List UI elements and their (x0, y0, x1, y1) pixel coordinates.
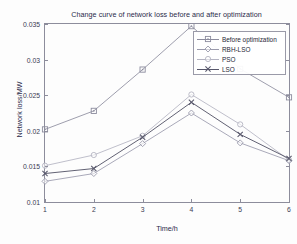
x-tick-label: 5 (220, 206, 260, 213)
data-point-cross (238, 132, 243, 137)
y-tick-label: 0.015 (0, 163, 40, 170)
data-point-diamond (237, 140, 243, 146)
legend-marker-cross-icon (196, 64, 220, 74)
x-tick-mark (289, 199, 290, 202)
x-tick-label: 4 (171, 206, 211, 213)
y-tick-mark (45, 95, 48, 96)
y-tick-label: 0.025 (0, 92, 40, 99)
data-point-diamond (188, 110, 194, 116)
chart-legend[interactable]: Before optimizationRBH-LSOPSOLSO (193, 31, 286, 75)
y-tick-label: 0.035 (0, 21, 40, 28)
x-tick-mark (143, 199, 144, 202)
series-line-2 (45, 94, 289, 165)
y-tick-mark (286, 166, 289, 167)
chart-title: Change curve of network loss before and … (44, 10, 289, 19)
legend-item-3[interactable]: LSO (194, 64, 285, 74)
y-tick-mark (45, 24, 48, 25)
data-point-cross (189, 100, 194, 105)
y-tick-mark (286, 131, 289, 132)
x-tick-label: 6 (269, 206, 297, 213)
legend-marker-square-icon (196, 34, 220, 44)
x-tick-label: 2 (74, 206, 114, 213)
data-point-cross (205, 66, 210, 71)
y-tick-mark (45, 202, 48, 203)
y-tick-mark (286, 60, 289, 61)
data-point-circle (189, 92, 194, 97)
series-line-1 (45, 113, 289, 181)
y-tick-mark (45, 131, 48, 132)
legend-item-0[interactable]: Before optimization (194, 34, 285, 44)
y-tick-mark (45, 166, 48, 167)
data-point-circle (91, 152, 96, 157)
series-line-3 (45, 102, 289, 173)
y-tick-mark (45, 60, 48, 61)
legend-item-2[interactable]: PSO (194, 54, 285, 64)
y-tick-label: 0.01 (0, 199, 40, 206)
legend-marker-diamond-icon (196, 44, 220, 54)
y-tick-mark (286, 202, 289, 203)
legend-label: Before optimization (222, 36, 277, 43)
data-point-circle (205, 56, 210, 61)
y-tick-label: 0.03 (0, 56, 40, 63)
x-tick-label: 1 (25, 206, 65, 213)
data-point-square (205, 36, 210, 41)
y-tick-mark (286, 24, 289, 25)
data-point-diamond (205, 46, 211, 52)
x-tick-mark (191, 199, 192, 202)
y-axis-label: Network loss/MW (15, 55, 24, 165)
y-tick-mark (286, 95, 289, 96)
legend-label: LSO (222, 66, 235, 73)
legend-label: RBH-LSO (222, 46, 250, 53)
x-axis-label: Time/h (44, 224, 290, 233)
legend-label: PSO (222, 56, 236, 63)
data-point-diamond (140, 141, 146, 147)
x-tick-mark (94, 199, 95, 202)
x-tick-mark (45, 199, 46, 202)
data-point-diamond (42, 178, 48, 184)
legend-marker-circle-icon (196, 54, 220, 64)
figure-canvas: Change curve of network loss before and … (0, 0, 297, 244)
x-tick-mark (240, 199, 241, 202)
y-tick-label: 0.02 (0, 127, 40, 134)
legend-item-1[interactable]: RBH-LSO (194, 44, 285, 54)
data-point-circle (238, 122, 243, 127)
x-tick-label: 3 (123, 206, 163, 213)
data-point-diamond (91, 171, 97, 177)
